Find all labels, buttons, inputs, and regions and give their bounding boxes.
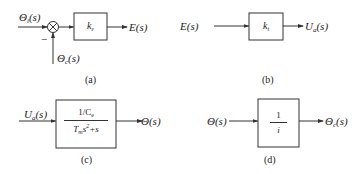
feedback-minus-sign: − [41, 33, 47, 45]
motor-transfer-fraction: 1/Ce Tms2+s [64, 107, 108, 135]
caption-a: (a) [85, 74, 96, 86]
output-ua-label: Ua(s) [305, 20, 328, 36]
caption-b: (b) [262, 74, 274, 86]
input-theta-label: Θ(s) [207, 115, 227, 127]
gain-kt-text: kt [249, 20, 283, 35]
gain-ke-text: kε [74, 20, 107, 35]
gear-ratio-fraction: 1 i [270, 110, 287, 135]
input-ua-label: Ua(s) [24, 108, 47, 124]
output-theta-c-label: Θc(s) [325, 115, 348, 131]
caption-c: (c) [81, 154, 92, 166]
caption-d: (d) [264, 154, 276, 166]
output-e-label: E(s) [129, 21, 147, 33]
input-e-label: E(s) [180, 20, 198, 32]
input-theta-i-label: Θi(s) [19, 11, 41, 27]
output-theta-label: Θ(s) [141, 115, 161, 127]
feedback-theta-c-label: Θc(s) [57, 52, 80, 68]
diagram-lines [0, 0, 356, 174]
